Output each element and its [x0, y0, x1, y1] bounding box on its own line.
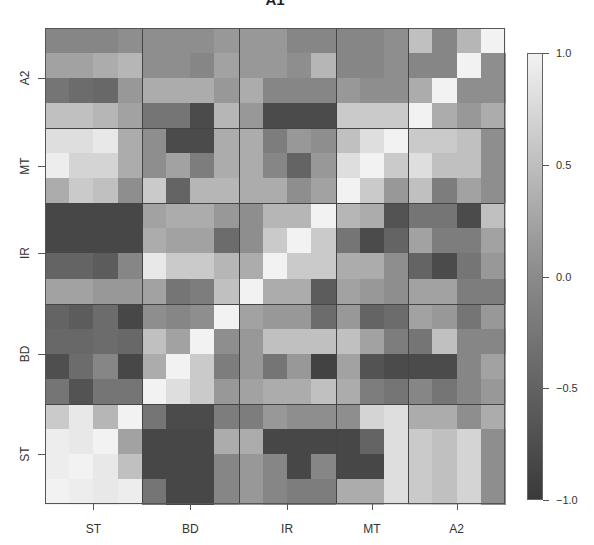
heatmap-cell	[263, 304, 288, 330]
heatmap-cell	[287, 253, 312, 279]
y-tick	[38, 78, 45, 79]
heatmap-cell	[384, 78, 409, 104]
heatmap-cell	[214, 329, 239, 355]
heatmap-cell	[481, 253, 506, 279]
heatmap-cell	[263, 329, 288, 355]
heatmap-cell	[481, 78, 506, 104]
heatmap-cell	[93, 228, 118, 254]
heatmap-cell	[93, 354, 118, 380]
heatmap-cell	[45, 404, 70, 430]
heatmap-cell	[45, 203, 70, 229]
heatmap-cell	[142, 379, 167, 405]
heatmap-cell	[311, 429, 336, 455]
heatmap-cell	[481, 279, 506, 305]
heatmap-cell	[69, 203, 94, 229]
heatmap-cell	[239, 429, 264, 455]
heatmap-cell	[239, 178, 264, 204]
y-tick	[38, 166, 45, 167]
heatmap-cell	[239, 304, 264, 330]
heatmap-cell	[214, 304, 239, 330]
heatmap-cell	[190, 329, 215, 355]
heatmap-cell	[214, 279, 239, 305]
heatmap-cell	[287, 329, 312, 355]
heatmap-cell	[336, 404, 361, 430]
heatmap-cell	[384, 228, 409, 254]
heatmap-cell	[481, 354, 506, 380]
heatmap-cell	[239, 103, 264, 129]
heatmap-cell	[118, 454, 143, 480]
heatmap-cell	[336, 379, 361, 405]
heatmap-cell	[239, 28, 264, 54]
heatmap-cell	[384, 479, 409, 505]
heatmap-cell	[311, 404, 336, 430]
heatmap-cell	[239, 153, 264, 179]
heatmap-cell	[336, 479, 361, 505]
heatmap-cell	[408, 379, 433, 405]
group-divider-horizontal	[45, 128, 505, 129]
heatmap-cell	[457, 28, 482, 54]
heatmap-cell	[263, 103, 288, 129]
heatmap-cell	[432, 53, 457, 79]
heatmap-cell	[432, 28, 457, 54]
heatmap-cell	[457, 78, 482, 104]
heatmap-cell	[239, 404, 264, 430]
heatmap-cell	[311, 354, 336, 380]
heatmap-cell	[287, 178, 312, 204]
heatmap-cell	[239, 379, 264, 405]
heatmap-cell	[118, 103, 143, 129]
colorbar-tick	[543, 388, 549, 389]
heatmap-cell	[142, 28, 167, 54]
heatmap-cell	[239, 329, 264, 355]
heatmap-cell	[360, 304, 385, 330]
heatmap-cell	[166, 404, 191, 430]
heatmap-cell	[118, 53, 143, 79]
heatmap-cell	[142, 203, 167, 229]
heatmap-cell	[384, 203, 409, 229]
heatmap-cell	[311, 279, 336, 305]
group-divider-vertical	[142, 28, 143, 504]
heatmap-cell	[142, 329, 167, 355]
heatmap-cell	[190, 479, 215, 505]
heatmap-cell	[118, 178, 143, 204]
heatmap-cell	[360, 128, 385, 154]
heatmap-cell	[457, 379, 482, 405]
heatmap-cell	[287, 404, 312, 430]
heatmap-cell	[311, 454, 336, 480]
heatmap-cell	[336, 354, 361, 380]
heatmap-cell	[166, 28, 191, 54]
heatmap-cell	[336, 454, 361, 480]
heatmap-cell	[287, 454, 312, 480]
colorbar-tick-label: −1.0	[556, 494, 578, 506]
heatmap-cell	[69, 128, 94, 154]
heatmap-cell	[481, 379, 506, 405]
heatmap-cell	[69, 329, 94, 355]
group-divider-vertical	[239, 28, 240, 504]
heatmap-cell	[432, 454, 457, 480]
heatmap-cell	[214, 153, 239, 179]
heatmap-cell	[481, 329, 506, 355]
heatmap-cell	[263, 153, 288, 179]
heatmap-cell	[481, 153, 506, 179]
heatmap-cell	[142, 178, 167, 204]
heatmap-cell	[190, 203, 215, 229]
group-divider-horizontal	[45, 404, 505, 405]
heatmap-cell	[118, 479, 143, 505]
heatmap-cell	[336, 103, 361, 129]
x-tick	[287, 504, 288, 510]
heatmap-cell	[432, 128, 457, 154]
heatmap-cell	[118, 279, 143, 305]
x-tick	[457, 504, 458, 510]
heatmap-cell	[118, 203, 143, 229]
heatmap-cell	[360, 203, 385, 229]
heatmap-cell	[336, 429, 361, 455]
heatmap-cell	[214, 103, 239, 129]
y-tick-label: BD	[18, 345, 32, 362]
heatmap-cell	[408, 479, 433, 505]
heatmap-cell	[142, 404, 167, 430]
heatmap-cell	[287, 429, 312, 455]
heatmap-cell	[142, 253, 167, 279]
group-divider-horizontal	[45, 304, 505, 305]
heatmap-cell	[432, 404, 457, 430]
heatmap-cell	[384, 279, 409, 305]
heatmap-cell	[239, 78, 264, 104]
